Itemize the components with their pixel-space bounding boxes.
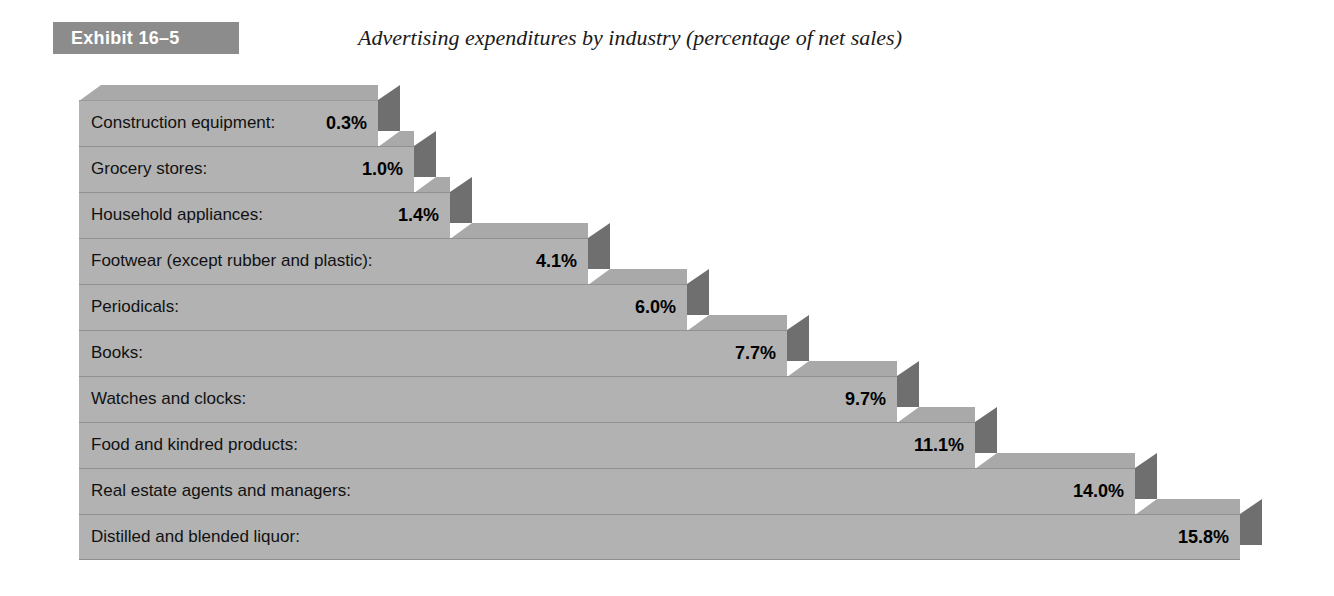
bar-side-face [414, 131, 436, 177]
bar-category-label: Construction equipment: [91, 113, 275, 133]
bar-value-label: 6.0% [635, 297, 676, 318]
bar-row: Footwear (except rubber and plastic):4.1… [79, 238, 610, 284]
bar-category-label: Grocery stores: [91, 159, 207, 179]
bar-value-label: 14.0% [1073, 481, 1124, 502]
bar-value-label: 9.7% [845, 389, 886, 410]
bar-content: Real estate agents and managers:14.0% [79, 468, 1135, 514]
bar-category-label: Watches and clocks: [91, 389, 246, 409]
bar-side-face [787, 315, 809, 361]
bar-row: Real estate agents and managers:14.0% [79, 468, 1157, 514]
bar-row: Watches and clocks:9.7% [79, 376, 919, 422]
bar-top-face [975, 453, 1135, 469]
bar-content: Food and kindred products:11.1% [79, 422, 975, 468]
bar-content: Watches and clocks:9.7% [79, 376, 897, 422]
bar-value-label: 15.8% [1178, 527, 1229, 548]
bar-category-label: Real estate agents and managers: [91, 481, 351, 501]
bar-row: Household appliances:1.4% [79, 192, 472, 238]
bar-content: Distilled and blended liquor:15.8% [79, 514, 1240, 560]
bar-content: Grocery stores:1.0% [79, 146, 414, 192]
bar-side-face [897, 361, 919, 407]
bar-content: Construction equipment:0.3% [79, 100, 378, 146]
bar-content: Books:7.7% [79, 330, 787, 376]
bar-value-label: 4.1% [536, 251, 577, 272]
bar-category-label: Periodicals: [91, 297, 179, 317]
bar-category-label: Footwear (except rubber and plastic): [91, 251, 373, 271]
bar-top-face [450, 223, 588, 239]
bar-category-label: Distilled and blended liquor: [91, 527, 300, 547]
stepped-bar-chart: Construction equipment:0.3%Grocery store… [0, 0, 1334, 596]
bar-value-label: 7.7% [735, 343, 776, 364]
bar-content: Periodicals:6.0% [79, 284, 687, 330]
bar-side-face [378, 85, 400, 131]
bar-content: Footwear (except rubber and plastic):4.1… [79, 238, 588, 284]
bar-value-label: 11.1% [914, 435, 964, 456]
bar-value-label: 0.3% [326, 113, 367, 134]
bar-value-label: 1.4% [398, 205, 439, 226]
bar-category-label: Food and kindred products: [91, 435, 298, 455]
bar-row: Books:7.7% [79, 330, 809, 376]
bar-side-face [450, 177, 472, 223]
bar-row: Periodicals:6.0% [79, 284, 709, 330]
bar-value-label: 1.0% [362, 159, 403, 180]
bar-row: Grocery stores:1.0% [79, 146, 436, 192]
bar-side-face [975, 407, 997, 453]
bar-category-label: Household appliances: [91, 205, 263, 225]
bar-row: Food and kindred products:11.1% [79, 422, 997, 468]
bar-top-face [79, 85, 378, 101]
bar-side-face [588, 223, 610, 269]
bar-row: Distilled and blended liquor:15.8% [79, 514, 1262, 560]
bar-row: Construction equipment:0.3% [79, 100, 400, 146]
bar-side-face [687, 269, 709, 315]
bar-series: Construction equipment:0.3%Grocery store… [0, 0, 1334, 596]
bar-category-label: Books: [91, 343, 143, 363]
bar-content: Household appliances:1.4% [79, 192, 450, 238]
bar-side-face [1135, 453, 1157, 499]
bar-side-face [1240, 499, 1262, 545]
